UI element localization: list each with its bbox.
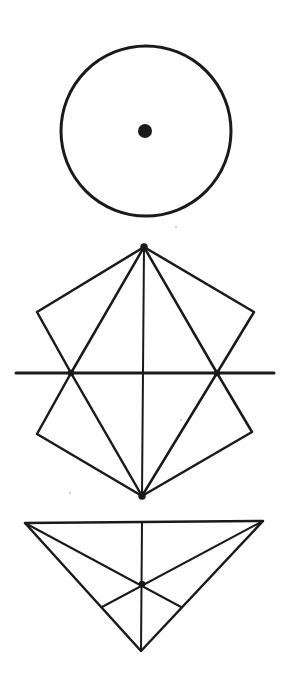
upper-left-edge bbox=[37, 247, 144, 373]
lower-right-edge bbox=[142, 373, 252, 496]
vertex-dot-top bbox=[142, 245, 147, 250]
triangle-figure bbox=[25, 521, 263, 651]
speck bbox=[175, 226, 177, 228]
center-dot bbox=[138, 124, 152, 138]
vertex-dot-bottom bbox=[140, 494, 145, 499]
circle-figure bbox=[61, 46, 231, 216]
diag-bottom-left bbox=[71, 373, 142, 496]
median-from-left bbox=[25, 523, 181, 607]
centroid-dot bbox=[140, 582, 144, 586]
diag-top-left bbox=[71, 247, 144, 373]
intersection-dot-left bbox=[69, 371, 73, 375]
diag-bottom-right bbox=[142, 373, 217, 496]
geometry-diagram bbox=[0, 0, 288, 689]
speck bbox=[69, 492, 71, 494]
upper-right-edge bbox=[144, 247, 254, 373]
intersection-dot-right bbox=[215, 371, 219, 375]
median-from-right bbox=[102, 521, 263, 607]
diag-top-right bbox=[144, 247, 217, 373]
lower-left-edge bbox=[37, 373, 142, 496]
kite-figure bbox=[16, 245, 274, 499]
speck bbox=[180, 419, 182, 421]
